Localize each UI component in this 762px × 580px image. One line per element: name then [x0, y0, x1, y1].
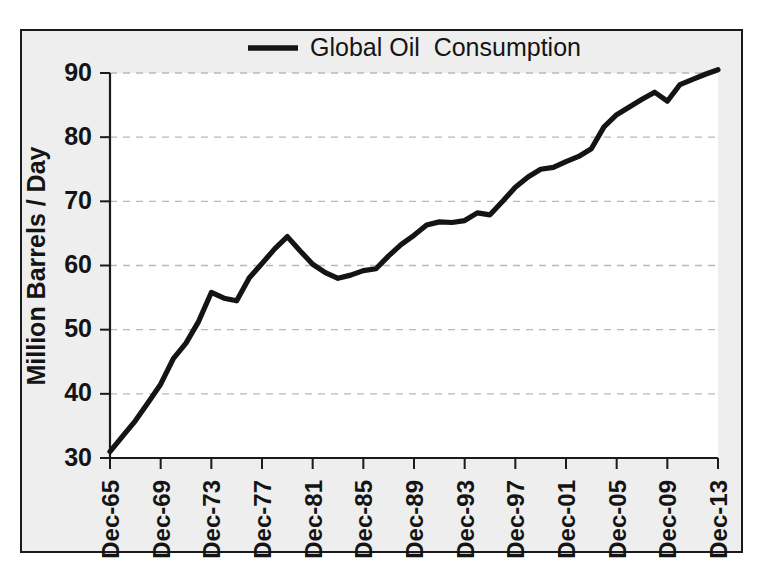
x-tick-label: Dec-01 — [553, 480, 580, 559]
x-tick-label: Dec-13 — [705, 480, 732, 559]
y-tick-label: 80 — [64, 122, 92, 150]
x-tick-label: Dec-93 — [452, 480, 479, 559]
line-chart: 30405060708090 Dec-65Dec-69Dec-73Dec-77D… — [0, 0, 762, 580]
x-tick-label: Dec-77 — [249, 480, 276, 559]
x-tick-label: Dec-73 — [198, 480, 225, 559]
y-axis-ticks: 30405060708090 — [64, 58, 110, 471]
legend-label-global-oil-consumption: Global Oil Consumption — [310, 33, 581, 61]
x-axis-ticks: Dec-65Dec-69Dec-73Dec-77Dec-81Dec-85Dec-… — [97, 458, 732, 559]
x-tick-label: Dec-05 — [604, 480, 631, 559]
x-tick-label: Dec-81 — [300, 480, 327, 559]
x-tick-label: Dec-09 — [654, 480, 681, 559]
x-tick-label: Dec-97 — [502, 480, 529, 559]
y-tick-label: 40 — [64, 378, 92, 406]
x-tick-label: Dec-89 — [401, 480, 428, 559]
y-tick-label: 30 — [64, 443, 92, 471]
y-tick-label: 50 — [64, 314, 92, 342]
x-tick-label: Dec-85 — [350, 480, 377, 559]
x-tick-label: Dec-69 — [148, 480, 175, 559]
y-axis-title: Million Barrels / Day — [22, 146, 50, 385]
y-tick-label: 70 — [64, 186, 92, 214]
y-tick-label: 90 — [64, 58, 92, 86]
y-tick-label: 60 — [64, 250, 92, 278]
x-tick-label: Dec-65 — [97, 480, 124, 559]
chart-legend: Global Oil Consumption — [248, 33, 581, 61]
chart-page: 30405060708090 Dec-65Dec-69Dec-73Dec-77D… — [0, 0, 762, 580]
